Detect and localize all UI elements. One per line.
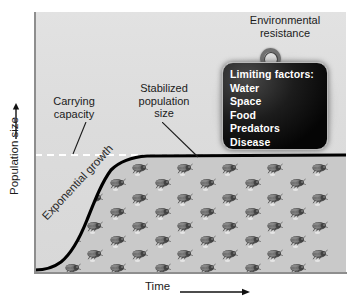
limiting-factor-item-food: Food [230,109,327,123]
environmental-resistance-label: Environmental resistance [238,14,332,39]
x-axis-title: Time [145,280,170,292]
environmental-resistance-line2: resistance [238,27,332,40]
x-axis-line [34,272,347,274]
population-growth-diagram: Population size Time Carrying capacity S… [0,0,358,302]
limiting-factor-item-space: Space [230,95,327,109]
carrying-capacity-label-line2: capacity [38,108,110,121]
stabilized-population-leader-line [162,122,202,160]
stabilized-label-line1: Stabilized [124,82,204,95]
stabilized-label-line3: size [124,107,204,120]
carrying-capacity-label: Carrying capacity [38,95,110,120]
stabilized-population-size-label: Stabilized population size [124,82,204,120]
limiting-factors-heading: Limiting factors: [230,68,327,82]
x-axis-arrow-icon [180,287,252,297]
y-axis-line [34,12,36,274]
environmental-resistance-line1: Environmental [238,14,332,27]
limiting-factor-item-predators: Predators [230,122,327,136]
limiting-factor-item-water: Water [230,82,327,96]
carrying-capacity-label-line1: Carrying [38,95,110,108]
y-axis-title: Population size [8,96,20,216]
limiting-factor-item-disease: Disease [230,136,327,150]
stabilized-label-line2: population [124,95,204,108]
carrying-capacity-leader-line [70,122,92,156]
limiting-factors-box: Limiting factors: Water Space Food Preda… [222,62,328,150]
